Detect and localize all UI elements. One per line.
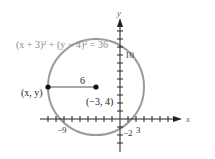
- y-tick-label-10: 10: [125, 50, 135, 60]
- y-tick-label-neg2: −2: [123, 128, 133, 138]
- point-label: (x, y): [21, 87, 43, 99]
- x-tick-label-3: 3: [136, 125, 141, 135]
- point-xy: [45, 84, 50, 89]
- x-tick-label-neg9: −9: [57, 125, 67, 135]
- y-axis-label: y: [116, 8, 121, 18]
- equation-label: (x + 3)² + (y − 4)² = 36: [16, 39, 108, 51]
- center-point: [93, 84, 98, 89]
- radius-label: 6: [80, 75, 85, 86]
- x-axis-arrow-icon: [173, 116, 182, 122]
- center-label: (−3, 4): [86, 96, 113, 108]
- y-axis-arrow-icon: [117, 18, 123, 27]
- x-axis-label: x: [185, 114, 190, 124]
- circle-diagram: (x + 3)² + (y − 4)² = 36 y x 10 −9 −2 3 …: [0, 0, 215, 159]
